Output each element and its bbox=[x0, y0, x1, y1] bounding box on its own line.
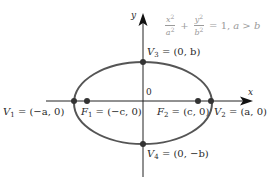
f1-name: F bbox=[81, 106, 88, 117]
v2-subscript: 2 bbox=[221, 111, 225, 119]
f1-subscript: 1 bbox=[88, 111, 92, 119]
v2-coords: = (a, 0) bbox=[229, 106, 267, 117]
equation-condition: a > b bbox=[233, 20, 260, 31]
v1-subscript: 1 bbox=[10, 111, 14, 119]
f1-coords: = (−c, 0) bbox=[96, 106, 142, 117]
y-term-fraction: y2 b2 bbox=[194, 14, 204, 37]
v4-subscript: 4 bbox=[154, 153, 158, 161]
v3-subscript: 3 bbox=[154, 51, 158, 59]
origin-label: 0 bbox=[146, 88, 152, 97]
y-axis-label: y bbox=[131, 11, 136, 20]
focus-f1-point bbox=[84, 98, 90, 104]
v2-label: V2 = (a, 0) bbox=[214, 107, 267, 119]
vertex-v4-point bbox=[140, 141, 146, 147]
vertex-v1-point bbox=[71, 98, 77, 104]
ellipse-equation: x2 a2 + y2 b2 = 1, a > b bbox=[163, 14, 260, 37]
x-term-den-exponent: 2 bbox=[171, 26, 175, 33]
plus-sign: + bbox=[180, 20, 188, 31]
x-term-num-exponent: 2 bbox=[171, 13, 175, 20]
v3-coords: = (0, b) bbox=[162, 46, 200, 57]
v4-coords: = (0, −b) bbox=[162, 148, 209, 159]
v3-label: V3 = (0, b) bbox=[147, 47, 200, 59]
focus-f2-point bbox=[195, 98, 201, 104]
f2-subscript: 2 bbox=[164, 111, 168, 119]
f2-name: F bbox=[157, 106, 164, 117]
v1-coords: = (−a, 0) bbox=[18, 106, 64, 117]
f2-label: F2 = (c, 0) bbox=[157, 107, 209, 119]
y-term-den-exponent: 2 bbox=[200, 26, 204, 33]
ellipse-diagram: y x 0 x2 a2 + y2 b2 = 1, a > b V3 = (0, … bbox=[0, 0, 279, 187]
x-term-fraction: x2 a2 bbox=[165, 14, 175, 37]
f2-coords: = (c, 0) bbox=[172, 106, 210, 117]
vertex-v3-point bbox=[140, 59, 146, 65]
y-term-num-exponent: 2 bbox=[199, 13, 203, 20]
equation-rhs: = 1, bbox=[209, 20, 230, 31]
vertex-v2-point bbox=[208, 98, 214, 104]
v1-label: V1 = (−a, 0) bbox=[3, 107, 64, 119]
v4-label: V4 = (0, −b) bbox=[147, 149, 209, 161]
x-axis-label: x bbox=[248, 88, 253, 97]
f1-label: F1 = (−c, 0) bbox=[81, 107, 142, 119]
